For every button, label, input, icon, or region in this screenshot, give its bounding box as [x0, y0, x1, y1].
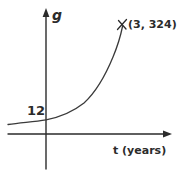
- y-axis-label: g: [52, 8, 62, 22]
- y-axis: [43, 8, 50, 169]
- exponential-growth-graph: g t (years) 12 (3, 324): [0, 0, 184, 179]
- x-axis-label: t (years): [113, 145, 166, 156]
- marked-point-label: (3, 324): [128, 19, 177, 30]
- x-axis: [8, 131, 172, 138]
- exponential-curve: [8, 27, 123, 125]
- y-axis-arrowhead: [43, 8, 50, 17]
- x-axis-arrowhead: [163, 131, 172, 138]
- y-intercept-label: 12: [27, 104, 45, 117]
